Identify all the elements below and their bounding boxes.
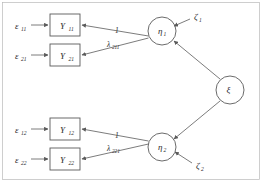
svg-text:11: 11 bbox=[21, 26, 26, 32]
svg-text:ξ: ξ bbox=[227, 85, 231, 95]
svg-text:1: 1 bbox=[199, 17, 202, 23]
svg-text:21: 21 bbox=[69, 56, 75, 62]
label-zeta1: ζ 1 bbox=[194, 12, 202, 23]
label-eps22: ε 22 bbox=[15, 155, 27, 166]
label-xi: ξ bbox=[227, 85, 231, 95]
diagram-canvas: Y 11 Y 21 Y 12 Y 22 η 1 η 2 ξ ε 11 bbox=[0, 0, 262, 182]
svg-text:ε: ε bbox=[15, 125, 19, 135]
svg-text:12: 12 bbox=[69, 130, 75, 136]
svg-text:211: 211 bbox=[112, 44, 120, 50]
label-eps12: ε 12 bbox=[15, 125, 27, 136]
svg-text:21: 21 bbox=[21, 56, 27, 62]
svg-text:1: 1 bbox=[164, 31, 167, 37]
path-label-lambda221: λ 221 bbox=[106, 144, 120, 154]
path-label-lambda211: λ 211 bbox=[106, 40, 120, 50]
svg-text:22: 22 bbox=[69, 160, 75, 166]
label-eps11: ε 11 bbox=[15, 21, 26, 32]
svg-text:η: η bbox=[158, 142, 163, 152]
path-label-loading-1-lower: 1 bbox=[115, 131, 119, 140]
svg-text:12: 12 bbox=[21, 130, 27, 136]
label-eps21: ε 21 bbox=[15, 51, 27, 62]
svg-text:11: 11 bbox=[69, 26, 74, 32]
svg-text:1: 1 bbox=[115, 26, 119, 35]
edge-zeta2-to-eta2 bbox=[175, 152, 192, 163]
svg-text:1: 1 bbox=[115, 131, 119, 140]
svg-text:221: 221 bbox=[112, 148, 120, 154]
svg-text:λ: λ bbox=[106, 144, 111, 153]
edge-xi-to-eta2 bbox=[174, 101, 220, 139]
svg-text:ε: ε bbox=[15, 51, 19, 61]
svg-text:22: 22 bbox=[21, 160, 27, 166]
svg-text:η: η bbox=[158, 26, 163, 36]
edge-zeta1-to-eta1 bbox=[174, 19, 190, 26]
sem-path-diagram: Y 11 Y 21 Y 12 Y 22 η 1 η 2 ξ ε 11 bbox=[0, 0, 262, 182]
svg-text:2: 2 bbox=[164, 147, 167, 153]
svg-text:2: 2 bbox=[201, 166, 204, 172]
svg-text:ε: ε bbox=[15, 155, 19, 165]
edge-xi-to-eta1 bbox=[174, 41, 220, 79]
label-zeta2: ζ 2 bbox=[196, 161, 204, 172]
path-label-loading-1-upper: 1 bbox=[115, 26, 119, 35]
svg-text:ε: ε bbox=[15, 21, 19, 31]
